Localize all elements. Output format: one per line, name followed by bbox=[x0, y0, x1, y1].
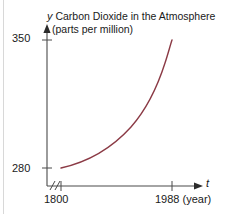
co2-curve bbox=[61, 40, 172, 168]
y-axis bbox=[43, 24, 50, 186]
y-tick-label-350: 350 bbox=[12, 32, 30, 45]
co2-chart-figure: y Carbon Dioxide in the Atmosphere (part… bbox=[0, 0, 228, 214]
x-tick-label-1800: 1800 bbox=[44, 193, 68, 206]
x-tick-label-1988: 1988 (year) bbox=[155, 193, 211, 206]
chart-title-text: Carbon Dioxide in the Atmosphere bbox=[55, 10, 215, 22]
t-axis-symbol: t bbox=[206, 177, 209, 190]
chart-title: y Carbon Dioxide in the Atmosphere bbox=[47, 10, 215, 23]
x-axis bbox=[47, 182, 203, 189]
chart-subtitle: (parts per million) bbox=[52, 23, 133, 36]
y-tick-label-280: 280 bbox=[12, 162, 30, 175]
y-axis-symbol: y bbox=[47, 10, 53, 22]
